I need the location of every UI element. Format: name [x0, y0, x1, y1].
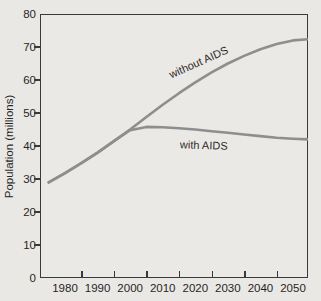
x-tick-label: 2050	[276, 281, 310, 295]
x-tick	[212, 271, 213, 277]
x-tick-label: 1990	[81, 281, 115, 295]
y-tick	[34, 112, 40, 113]
y-tick	[34, 145, 40, 146]
annotation-with-aids: with AIDS	[180, 138, 228, 152]
y-tick-label: 0	[10, 272, 36, 285]
y-tick-label: 30	[10, 173, 36, 186]
x-tick-label: 2040	[243, 281, 277, 295]
y-tick-label: 10	[10, 239, 36, 252]
x-tick	[81, 271, 82, 277]
y-tick-label: 40	[10, 140, 36, 153]
x-tick	[179, 271, 180, 277]
x-tick-label: 2020	[178, 281, 212, 295]
y-tick	[34, 79, 40, 80]
x-tick-label: 2000	[113, 281, 147, 295]
y-tick-label: 50	[10, 107, 36, 120]
x-tick	[244, 271, 245, 277]
y-tick-label: 80	[10, 8, 36, 21]
x-tick-label: 2030	[211, 281, 245, 295]
y-tick	[34, 46, 40, 47]
y-tick	[34, 244, 40, 245]
x-tick	[114, 271, 115, 277]
y-tick-label: 60	[10, 74, 36, 87]
x-tick	[277, 271, 278, 277]
plot-area	[40, 14, 308, 278]
y-tick-label: 70	[10, 41, 36, 54]
x-tick-label: 2010	[146, 281, 180, 295]
y-tick	[34, 211, 40, 212]
x-tick-label: 1980	[48, 281, 82, 295]
y-tick	[34, 178, 40, 179]
x-tick	[146, 271, 147, 277]
population-aids-chart: Population (millions) 198019902000201020…	[0, 0, 321, 301]
y-tick-label: 20	[10, 206, 36, 219]
